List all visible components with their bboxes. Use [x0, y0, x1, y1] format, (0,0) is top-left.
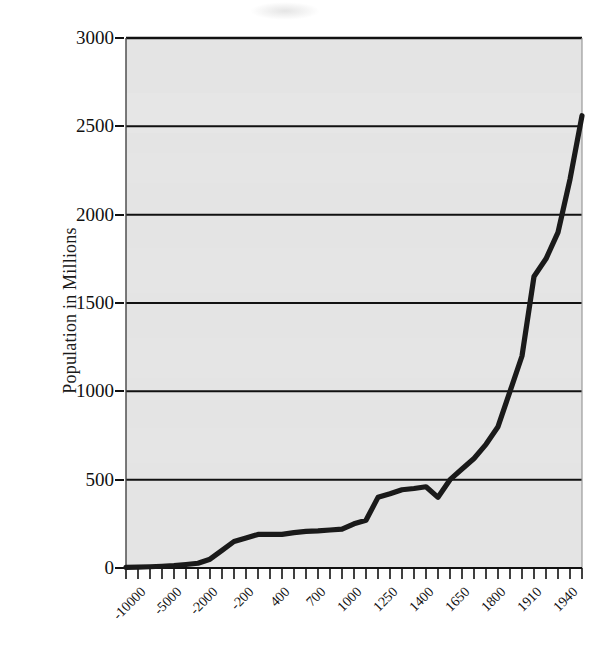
scan-band	[126, 338, 582, 378]
population-line-chart: Population in Millions 05001000150020002…	[0, 0, 603, 658]
scan-band	[126, 428, 582, 463]
scan-band	[126, 248, 582, 293]
chart-canvas: Population in Millions 05001000150020002…	[0, 0, 603, 658]
plot-area	[0, 0, 603, 658]
scan-band	[126, 153, 582, 183]
